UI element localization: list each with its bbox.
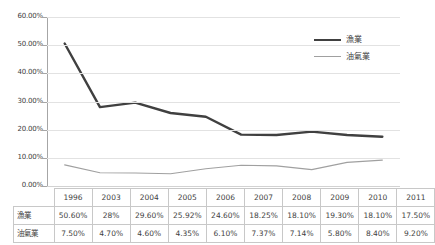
series-line-2 (65, 160, 383, 174)
y-axis-tick-label: 10.00% (18, 154, 44, 161)
table-column-header: 2005 (168, 189, 206, 207)
y-axis-tick (42, 45, 47, 46)
data-table: 1996200320042005200620072008200920102011… (13, 188, 435, 243)
table-cell: 18.10% (359, 207, 397, 225)
legend-label-oil-gas: 油氣業 (346, 52, 370, 61)
table-row: 漁業50.60%28%29.60%25.92%24.60%18.25%18.10… (14, 207, 435, 225)
table-cell: 7.50% (54, 225, 92, 243)
legend-item-oil-gas[interactable]: 油氣業 (314, 48, 400, 65)
table-column-header: 2007 (244, 189, 282, 207)
y-axis-labels: 60.00%50.00%40.00%30.00%20.00%10.00%0.00… (0, 0, 46, 190)
table-cell: 28% (92, 207, 130, 225)
y-axis-tick (42, 158, 47, 159)
table-column-header: 1996 (54, 189, 92, 207)
table-cell: 29.60% (130, 207, 168, 225)
table-cell: 5.80% (321, 225, 359, 243)
table-header-row: 1996200320042005200620072008200920102011 (14, 189, 435, 207)
grid-line (47, 130, 400, 131)
table-cell: 19.30% (321, 207, 359, 225)
table-column-header: 2011 (397, 189, 435, 207)
table-cell: 7.37% (244, 225, 282, 243)
y-axis-tick-label: 40.00% (18, 69, 44, 76)
table-cell: 7.14% (283, 225, 321, 243)
legend-label-fishery: 漁業 (346, 35, 362, 44)
legend-item-fishery[interactable]: 漁業 (314, 31, 400, 48)
grid-line (47, 102, 400, 103)
table-row-label: 漁業 (14, 207, 55, 225)
table-row: 油氣業7.50%4.70%4.60%4.35%6.10%7.37%7.14%5.… (14, 225, 435, 243)
legend-swatch-fishery (314, 39, 341, 41)
table-column-header: 2009 (321, 189, 359, 207)
y-axis-tick-label: 60.00% (18, 13, 44, 20)
y-axis-tick (42, 17, 47, 18)
y-axis-tick (42, 186, 47, 187)
y-axis-tick-label: 20.00% (18, 126, 44, 133)
data-table-body: 1996200320042005200620072008200920102011… (14, 189, 435, 243)
table-cell: 4.35% (168, 225, 206, 243)
grid-line (47, 186, 400, 187)
grid-line (47, 73, 400, 74)
table-cell: 17.50% (397, 207, 435, 225)
table-cell: 4.70% (92, 225, 130, 243)
y-axis-tick (42, 130, 47, 131)
y-axis-tick-label: 50.00% (18, 41, 44, 48)
plot-wrapper: 60.00%50.00%40.00%30.00%20.00%10.00%0.00… (0, 0, 409, 190)
table-cell: 6.10% (206, 225, 244, 243)
y-axis-tick (42, 73, 47, 74)
table-cell: 18.25% (244, 207, 282, 225)
table-corner-cell (14, 189, 55, 207)
chart-legend: 漁業 油氣業 (314, 31, 400, 65)
grid-line (47, 158, 400, 159)
table-cell: 24.60% (206, 207, 244, 225)
table-cell: 9.20% (397, 225, 435, 243)
legend-swatch-oil-gas (314, 56, 341, 57)
table-column-header: 2010 (359, 189, 397, 207)
table-column-header: 2004 (130, 189, 168, 207)
table-cell: 50.60% (54, 207, 92, 225)
table-column-header: 2008 (283, 189, 321, 207)
y-axis-tick (42, 102, 47, 103)
y-axis-tick-label: 30.00% (18, 98, 44, 105)
table-cell: 8.40% (359, 225, 397, 243)
table-cell: 25.92% (168, 207, 206, 225)
grid-line (47, 17, 400, 18)
table-column-header: 2003 (92, 189, 130, 207)
table-cell: 4.60% (130, 225, 168, 243)
table-row-label: 油氣業 (14, 225, 55, 243)
table-column-header: 2006 (206, 189, 244, 207)
table-cell: 18.10% (283, 207, 321, 225)
